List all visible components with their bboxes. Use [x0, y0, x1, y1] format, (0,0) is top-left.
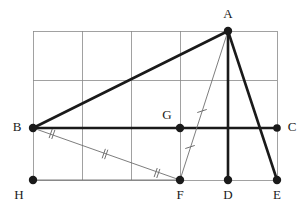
vertex-label-G: G [162, 107, 171, 122]
vertex-dot-H [29, 176, 37, 184]
vertex-label-B: B [13, 119, 22, 134]
vertex-dot-A [224, 27, 232, 35]
vertex-label-F: F [176, 187, 183, 202]
vertex-dot-B [29, 124, 37, 132]
vertex-dot-C [273, 124, 281, 132]
vertex-dot-E [273, 176, 281, 184]
vertex-label-H: H [14, 187, 23, 202]
vertex-dot-F [176, 176, 184, 184]
geometry-figure: ABCDEFGH [0, 0, 305, 208]
vertex-label-E: E [273, 187, 281, 202]
vertex-dot-G [176, 124, 184, 132]
vertex-label-C: C [288, 119, 297, 134]
vertex-dot-D [224, 176, 232, 184]
geometry-canvas: ABCDEFGH [0, 0, 305, 208]
vertex-label-A: A [223, 6, 233, 21]
vertex-label-D: D [223, 187, 232, 202]
